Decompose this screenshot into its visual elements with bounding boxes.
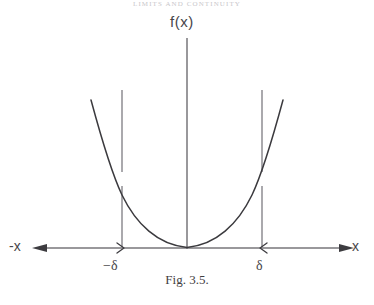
- figure-drawing-canvas: [0, 0, 374, 305]
- x-axis: [32, 244, 354, 252]
- function-label: f(x): [170, 13, 194, 30]
- x-axis-positive-label: x: [352, 238, 359, 254]
- x-axis-left-arrowhead: [32, 244, 47, 252]
- x-axis-negative-label: -x: [9, 238, 21, 254]
- figure-caption: Fig. 3.5.: [0, 272, 374, 288]
- figure-3-5: LIMITS AND CONTINUITY: [0, 0, 374, 305]
